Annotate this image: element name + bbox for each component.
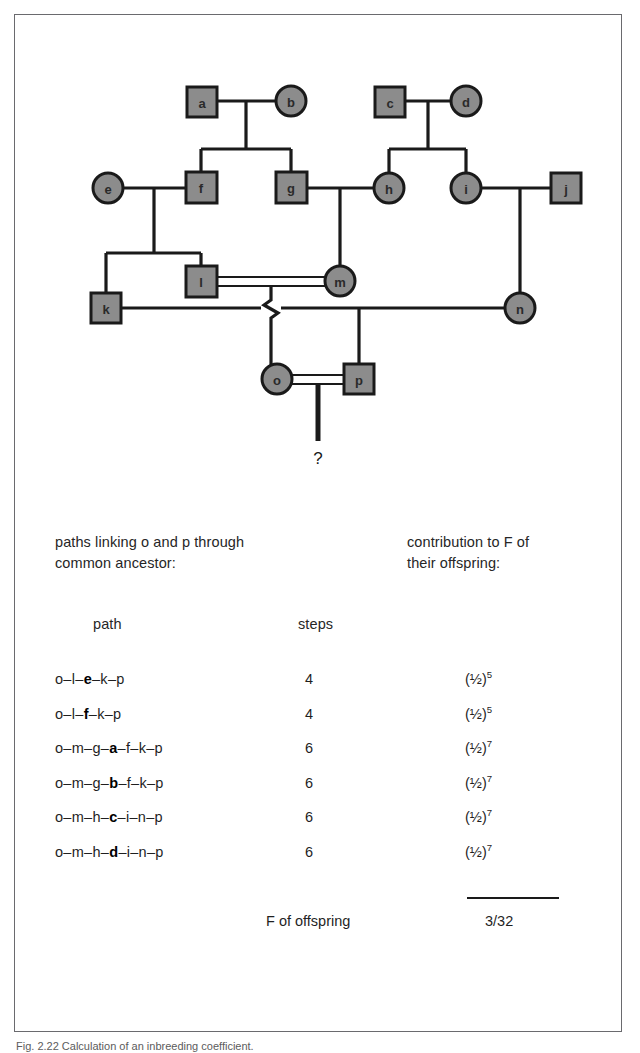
path-contribution: (½)7 (465, 775, 492, 791)
label-f: f (199, 181, 204, 196)
label-p: p (355, 373, 363, 388)
path-row: o–m–g–a–f–k–p6(½)7 (15, 740, 623, 775)
path-steps: 6 (305, 775, 313, 791)
summary-value: 3/32 (485, 913, 513, 929)
path-expression: o–m–h–d–i–n–p (55, 844, 164, 860)
path-steps: 4 (305, 671, 313, 687)
pedigree-diagram: a b c d e f g h i j (15, 15, 623, 475)
common-ancestor: c (109, 809, 117, 825)
label-o: o (273, 373, 281, 388)
path-expression: o–l–e–k–p (55, 671, 125, 687)
column-header-path: path (93, 616, 122, 632)
column-header-steps: steps (298, 616, 333, 632)
path-steps: 4 (305, 706, 313, 722)
path-row: o–m–g–b–f–k–p6(½)7 (15, 775, 623, 810)
label-h: h (385, 182, 393, 197)
path-row: o–l–e–k–p4(½)5 (15, 671, 623, 706)
path-steps: 6 (305, 844, 313, 860)
path-expression: o–l–f–k–p (55, 706, 121, 722)
label-j: j (563, 182, 568, 197)
path-expression: o–m–h–c–i–n–p (55, 809, 163, 825)
figure-panel: a b c d e f g h i j (14, 14, 622, 1032)
summary-divider (467, 897, 559, 899)
label-m: m (334, 275, 346, 290)
label-e: e (104, 182, 111, 197)
path-contribution: (½)7 (465, 740, 492, 756)
label-c: c (386, 96, 393, 111)
label-n: n (516, 302, 524, 317)
path-contribution: (½)5 (465, 671, 492, 687)
path-expression: o–m–g–b–f–k–p (55, 775, 164, 791)
descent-drop-l-m-to-o-with-line-hop (264, 286, 278, 365)
label-g: g (287, 181, 295, 196)
label-i: i (464, 182, 468, 197)
path-contribution: (½)7 (465, 809, 492, 825)
label-k: k (102, 302, 110, 317)
label-l: l (199, 275, 203, 290)
common-ancestor: e (84, 671, 92, 687)
label-d: d (462, 95, 470, 110)
path-steps: 6 (305, 740, 313, 756)
path-row: o–l–f–k–p4(½)5 (15, 706, 623, 741)
offspring-question-mark: ? (313, 449, 322, 468)
path-steps: 6 (305, 809, 313, 825)
summary-label: F of offspring (266, 913, 350, 929)
table-header-left: paths linking o and p through common anc… (55, 532, 335, 574)
common-ancestor: b (109, 775, 118, 791)
path-expression: o–m–g–a–f–k–p (55, 740, 163, 756)
path-row: o–m–h–d–i–n–p6(½)7 (15, 844, 623, 879)
path-contribution: (½)7 (465, 844, 492, 860)
figure-caption: Fig. 2.22 Calculation of an inbreeding c… (16, 1040, 616, 1053)
common-ancestor: a (109, 740, 117, 756)
common-ancestor: d (109, 844, 118, 860)
path-row: o–m–h–c–i–n–p6(½)7 (15, 809, 623, 844)
figure-root: a b c d e f g h i j (0, 0, 640, 1053)
path-table: paths linking o and p through common anc… (15, 475, 623, 1033)
label-b: b (287, 95, 295, 110)
path-row-list: o–l–e–k–p4(½)5o–l–f–k–p4(½)5o–m–g–a–f–k–… (15, 671, 623, 878)
label-a: a (198, 96, 206, 111)
table-header-right: contribution to F of their offspring: (407, 532, 607, 574)
pedigree-symbols: a b c d e f g h i j (91, 86, 581, 468)
path-contribution: (½)5 (465, 706, 492, 722)
